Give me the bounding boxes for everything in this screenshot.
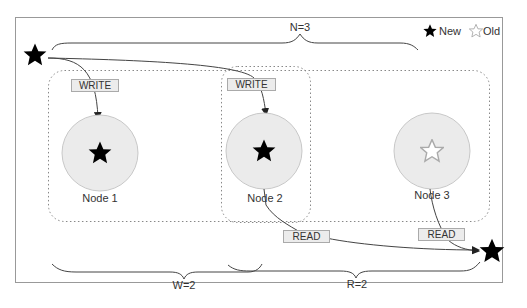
legend-new-star-icon [423,24,436,37]
read-box-2: READ [419,229,465,241]
node-1-label: Node 1 [82,192,117,204]
read-box-1: READ [284,231,330,243]
write-box-1: WRITE [72,80,119,92]
legend-new-label: New [439,25,461,37]
w-label: W=2 [173,279,196,291]
client-write-star-icon [24,44,47,66]
read-label-2: READ [428,229,456,240]
read-label-1: READ [293,231,321,242]
write-label-1: WRITE [79,80,112,91]
r-label: R=2 [347,278,368,290]
n-label: N=3 [290,21,311,33]
legend-old-star-icon [469,24,482,37]
client-read-star-icon [480,239,505,262]
r-brace [228,262,480,278]
write-box-2: WRITE [228,79,276,91]
quorum-diagram: N=3 W=2 R=2 WRITE WRITE Node 1 Node 2 No… [0,0,527,308]
n-brace [52,34,418,50]
node-1: Node 1 [62,115,138,204]
write-label-2: WRITE [235,79,268,90]
legend-old-label: Old [483,25,500,37]
legend: New Old [423,24,500,37]
node-3: Node 3 [394,113,470,201]
